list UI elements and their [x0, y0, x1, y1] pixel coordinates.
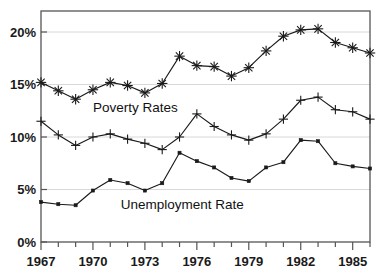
line-chart: 0%5%10%15%20%196719701973197619791982198…	[0, 0, 380, 274]
x-tick-label: 1967	[27, 254, 56, 269]
marker-asterisk	[261, 46, 271, 56]
y-tick-label: 5%	[17, 182, 36, 197]
x-tick-label: 1985	[338, 254, 367, 269]
marker-asterisk	[122, 80, 132, 90]
marker-asterisk	[36, 77, 46, 87]
chart-container: 0%5%10%15%20%196719701973197619791982198…	[0, 0, 380, 274]
x-tick-label: 1976	[182, 254, 211, 269]
marker-square	[265, 166, 268, 169]
marker-plus	[88, 132, 97, 141]
marker-asterisk	[296, 25, 306, 35]
marker-square	[57, 203, 60, 206]
series-annotation-2: Unemployment Rate	[121, 197, 244, 212]
marker-plus	[71, 141, 80, 150]
marker-square	[39, 201, 42, 204]
x-tick-label: 1970	[78, 254, 107, 269]
series-1	[36, 24, 375, 105]
marker-square	[351, 165, 354, 168]
marker-plus	[123, 135, 132, 144]
x-axis: 1967197019731976197919821985	[27, 242, 370, 269]
marker-asterisk	[347, 43, 357, 53]
x-tick-label: 1973	[130, 254, 159, 269]
marker-square	[247, 180, 250, 183]
x-tick-label: 1982	[286, 254, 315, 269]
marker-square	[195, 160, 198, 163]
marker-plus	[227, 130, 236, 139]
series-annotations: Poverty RatesUnemployment Rate	[93, 100, 244, 213]
marker-asterisk	[140, 88, 150, 98]
y-tick-label: 10%	[10, 130, 36, 145]
marker-square	[230, 176, 233, 179]
marker-asterisk	[278, 31, 288, 41]
marker-asterisk	[365, 48, 375, 58]
series-line	[41, 140, 370, 205]
marker-plus	[158, 145, 167, 154]
marker-plus	[348, 107, 357, 116]
marker-plus	[313, 93, 322, 102]
marker-asterisk	[88, 85, 98, 95]
marker-square	[334, 162, 337, 165]
marker-square	[161, 182, 164, 185]
marker-asterisk	[192, 60, 202, 70]
marker-plus	[210, 122, 219, 131]
marker-asterisk	[174, 51, 184, 61]
y-tick-label: 15%	[10, 77, 36, 92]
marker-square	[282, 161, 285, 164]
marker-asterisk	[53, 86, 63, 96]
series-annotation-1: Poverty Rates	[93, 100, 178, 115]
marker-square	[178, 151, 181, 154]
marker-square	[91, 189, 94, 192]
series-line	[41, 97, 370, 150]
marker-plus	[140, 139, 149, 148]
y-tick-label: 20%	[10, 25, 36, 40]
x-tick-label: 1979	[234, 254, 263, 269]
marker-plus	[365, 115, 374, 124]
marker-asterisk	[244, 63, 254, 73]
series-line	[41, 29, 370, 99]
marker-asterisk	[70, 94, 80, 104]
marker-asterisk	[330, 37, 340, 47]
marker-square	[143, 189, 146, 192]
series-2	[36, 93, 374, 155]
marker-square	[126, 182, 129, 185]
marker-square	[109, 179, 112, 182]
marker-asterisk	[209, 61, 219, 71]
marker-asterisk	[226, 71, 236, 81]
marker-asterisk	[157, 78, 167, 88]
marker-asterisk	[105, 77, 115, 87]
marker-square	[299, 139, 302, 142]
marker-plus	[331, 105, 340, 114]
y-tick-label: 0%	[17, 235, 36, 250]
marker-plus	[192, 109, 201, 118]
marker-square	[317, 140, 320, 143]
marker-square	[74, 204, 77, 207]
marker-square	[213, 166, 216, 169]
gridlines	[41, 32, 370, 190]
marker-square	[368, 167, 371, 170]
marker-asterisk	[313, 24, 323, 34]
marker-plus	[175, 132, 184, 141]
